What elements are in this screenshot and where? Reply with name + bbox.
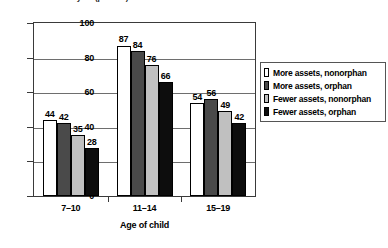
bar bbox=[43, 120, 57, 196]
bar-value-label: 76 bbox=[139, 54, 165, 64]
y-tick-mark bbox=[27, 92, 33, 93]
legend-item[interactable]: More assets, nonorphan bbox=[264, 66, 383, 79]
bar bbox=[85, 148, 99, 196]
bar bbox=[159, 82, 173, 196]
legend-label: More assets, orphan bbox=[273, 81, 352, 91]
bar-value-label: 42 bbox=[51, 112, 77, 122]
x-axis-title: Age of child bbox=[33, 220, 256, 230]
legend-swatch-icon bbox=[264, 107, 269, 116]
legend-label: Fewer assets, nonorphan bbox=[273, 94, 371, 104]
legend-label: More assets, nonorphan bbox=[273, 68, 367, 78]
bar-value-label: 35 bbox=[65, 124, 91, 134]
bar-value-label: 49 bbox=[212, 100, 238, 110]
legend-swatch-icon bbox=[264, 81, 269, 90]
bar bbox=[145, 65, 159, 196]
x-axis-separator bbox=[181, 197, 182, 202]
legend-label: Fewer assets, orphan bbox=[273, 107, 356, 117]
legend-item[interactable]: More assets, orphan bbox=[264, 79, 383, 92]
chart-title: Enrollment rate last year (percent) bbox=[2, 0, 128, 2]
x-axis-separator bbox=[108, 197, 109, 202]
legend: More assets, nonorphanMore assets, orpha… bbox=[260, 62, 386, 122]
bar-value-label: 84 bbox=[125, 40, 151, 50]
y-tick-mark bbox=[27, 161, 33, 162]
bar-value-label: 56 bbox=[198, 88, 224, 98]
legend-item[interactable]: Fewer assets, orphan bbox=[264, 105, 383, 118]
y-tick-mark bbox=[27, 58, 33, 59]
bar-value-label: 28 bbox=[79, 137, 105, 147]
bar bbox=[190, 103, 204, 196]
legend-swatch-icon bbox=[264, 68, 269, 77]
bar bbox=[117, 46, 131, 197]
legend-swatch-icon bbox=[264, 94, 269, 103]
bar bbox=[232, 123, 246, 196]
x-tick-label: 15–19 bbox=[183, 203, 253, 213]
x-tick-label: 11–14 bbox=[110, 203, 180, 213]
y-tick-mark bbox=[27, 23, 33, 24]
y-tick-mark bbox=[27, 127, 33, 128]
bar bbox=[218, 111, 232, 196]
bar-series-group: 444235288784766654564942 bbox=[34, 23, 255, 196]
bar-value-label: 66 bbox=[153, 71, 179, 81]
x-tick-label: 7–10 bbox=[36, 203, 106, 213]
bar-value-label: 42 bbox=[226, 112, 252, 122]
y-tick-mark bbox=[27, 196, 33, 197]
bar bbox=[204, 99, 218, 196]
legend-item[interactable]: Fewer assets, nonorphan bbox=[264, 92, 383, 105]
bar bbox=[131, 51, 145, 196]
